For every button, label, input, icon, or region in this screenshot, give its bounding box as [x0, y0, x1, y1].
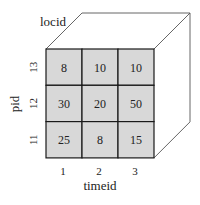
row-labels: 131211 [27, 61, 39, 145]
cube-edge-bottom-right [154, 122, 190, 158]
cell-value: 8 [61, 61, 67, 75]
column-label: 2 [96, 165, 102, 177]
cell-value: 25 [58, 133, 70, 147]
row-label: 11 [27, 134, 39, 145]
data-cube-diagram: 8101030205025815 locid pid timeid 131211… [0, 0, 200, 205]
cell-value: 30 [58, 97, 70, 111]
column-labels: 123 [60, 165, 138, 177]
cell-value: 10 [94, 61, 106, 75]
row-label: 12 [27, 98, 39, 109]
column-label: 1 [60, 165, 66, 177]
cube-edge-top-right [154, 13, 190, 49]
cell-value: 10 [130, 61, 142, 75]
front-face-grid: 8101030205025815 [46, 49, 154, 158]
column-axis-label: timeid [83, 178, 117, 193]
cell-value: 20 [94, 97, 106, 111]
cell-value: 50 [130, 97, 142, 111]
row-axis-label: pid [7, 95, 22, 112]
cell-value: 8 [97, 133, 103, 147]
row-label: 13 [27, 61, 39, 73]
column-label: 3 [132, 165, 138, 177]
depth-axis-label: locid [40, 14, 66, 29]
cell-value: 15 [130, 133, 142, 147]
